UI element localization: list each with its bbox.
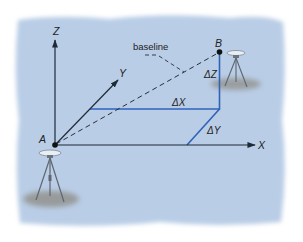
point-b-marker — [217, 49, 223, 55]
y-axis-label: Y — [119, 67, 127, 79]
point-a-label: A — [38, 133, 46, 145]
point-b-label: B — [215, 37, 222, 49]
x-axis-label: X — [257, 139, 266, 151]
baseline-label: baseline — [133, 41, 168, 52]
point-a-marker — [52, 142, 58, 148]
delta-z-label: ΔZ — [203, 69, 218, 80]
delta-y-label: ΔY — [206, 125, 222, 136]
z-axis-label: Z — [52, 25, 60, 37]
baseline-vector-diagram: Z X Y A B baseline ΔZ ΔX ΔY — [0, 0, 303, 242]
delta-x-label: ΔX — [171, 97, 186, 108]
